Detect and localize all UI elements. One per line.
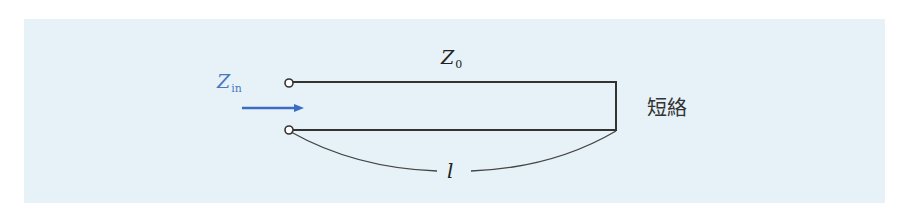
transmission-line-diagram bbox=[0, 0, 911, 214]
length-brace-right bbox=[471, 131, 616, 171]
characteristic-impedance-label: Z0 bbox=[441, 48, 462, 67]
input-arrow-head-icon bbox=[294, 104, 304, 112]
z0-main: Z bbox=[441, 46, 454, 68]
upper-terminal-icon bbox=[285, 79, 293, 87]
z0-subscript: 0 bbox=[455, 58, 462, 71]
short-circuit-label: 短絡 bbox=[647, 98, 687, 118]
zin-subscript: in bbox=[231, 82, 242, 95]
zin-main: Z bbox=[217, 70, 230, 92]
length-brace-left bbox=[291, 132, 437, 171]
input-impedance-label: Zin bbox=[217, 72, 242, 91]
length-label: l bbox=[447, 161, 453, 181]
